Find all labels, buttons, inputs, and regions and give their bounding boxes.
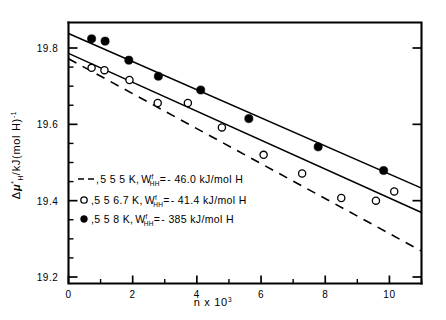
y-tick-label-19.4: 19.4 [37, 196, 59, 207]
legend-558k-value: - 385 kJ/mol H [161, 213, 234, 225]
y-axis-title-mu: μ [10, 184, 22, 192]
y-axis-title-mu-sup: * [10, 181, 17, 184]
data-point-558K [154, 72, 162, 80]
data-point-558K [314, 143, 322, 151]
data-point-558K [101, 37, 109, 45]
axis-frame [69, 23, 422, 284]
svg-text:,5 5 5 K,WfHH=- 46.0 kJ/mol H: ,5 5 5 K,WfHH=- 46.0 kJ/mol H [96, 173, 243, 187]
legend-5567k-temp: 5 5 6.7 K, [94, 194, 142, 206]
y-tick-label-19.8: 19.8 [37, 43, 59, 54]
y-axis-title: Δμ*H/kJ(mol H)-1 [10, 111, 24, 199]
svg-text:n x 103: n x 103 [194, 296, 233, 308]
svg-text:,5 5 6.7 K,WfHH=- 41.4 kJ/mol: ,5 5 6.7 K,WfHH=- 41.4 kJ/mol H [91, 194, 247, 208]
data-point-558K [245, 115, 253, 123]
legend-5567k-sup: f [155, 194, 157, 201]
data-point-5567K [391, 188, 398, 195]
data-point-5567K [372, 197, 379, 204]
y-axis-title-exponent: -1 [10, 111, 17, 118]
legend-558k-sub: HH [144, 220, 154, 227]
data-point-558K [380, 166, 388, 174]
y-axis-major-ticks [69, 48, 422, 277]
data-point-5567K [88, 64, 95, 71]
data-point-5567K [218, 124, 225, 131]
y-axis-title-rest: /kJ(mol H) [10, 118, 22, 175]
legend-entry-555k[interactable]: ,5 5 5 K,WfHH=- 46.0 kJ/mol H [78, 173, 243, 187]
legend-5567k-value: - 41.4 kJ/mol H [171, 194, 247, 206]
data-point-5567K [260, 151, 267, 158]
figure-container: 0246810 19.819.619.419.2 n x 103 Δμ*H/kJ… [0, 0, 446, 320]
legend-filled-circle-marker [81, 216, 88, 223]
x-tick-label-2: 2 [130, 289, 136, 300]
fit-line-5567K [69, 53, 422, 212]
data-point-5567K [101, 67, 108, 74]
y-axis-title-delta: Δ [10, 191, 22, 199]
x-axis-title-exponent: 3 [228, 296, 232, 303]
data-point-5567K [154, 99, 161, 106]
legend-5567k-sub: HH [153, 201, 163, 208]
legend-5567k-equals: = [163, 194, 169, 206]
legend-open-circle-marker [81, 197, 87, 203]
y-axis-tick-labels: 19.819.619.419.2 [37, 43, 59, 283]
data-point-558K [197, 86, 205, 94]
legend-555k-equals: = [160, 173, 166, 185]
svg-text:,5 5 8 K,WfHH=- 385 kJ/mol H: ,5 5 8 K,WfHH=- 385 kJ/mol H [91, 213, 234, 227]
svg-text:Δμ*H/kJ(mol H)-1: Δμ*H/kJ(mol H)-1 [10, 111, 24, 199]
x-tick-label-6: 6 [258, 289, 264, 300]
legend-558k-equals: = [154, 213, 160, 225]
legend-555k-sub: HH [150, 180, 160, 187]
data-point-5567K [299, 170, 306, 177]
axis-spines-top-right [69, 23, 422, 284]
legend-558k-sup: f [146, 213, 148, 220]
legend-555k-temp: 5 5 5 K, [100, 173, 139, 185]
fit-line-558K [69, 33, 422, 188]
x-tick-label-8: 8 [322, 289, 328, 300]
data-point-558K [125, 56, 133, 64]
data-point-5567K [126, 76, 133, 83]
data-point-5567K [338, 194, 345, 201]
legend-555k-sup: f [152, 173, 154, 180]
y-tick-label-19.6: 19.6 [37, 119, 59, 130]
scatter-plot: 0246810 19.819.619.419.2 n x 103 Δμ*H/kJ… [0, 0, 446, 320]
y-tick-label-19.2: 19.2 [37, 272, 59, 283]
data-point-558K [88, 35, 96, 43]
legend-entry-5567k[interactable]: ,5 5 6.7 K,WfHH=- 41.4 kJ/mol H [81, 194, 247, 208]
data-point-5567K [184, 99, 191, 106]
x-tick-label-10: 10 [383, 289, 395, 300]
x-axis-title-text: n x 10 [194, 296, 228, 308]
x-axis-title: n x 103 [194, 296, 233, 308]
legend-entry-558k[interactable]: ,5 5 8 K,WfHH=- 385 kJ/mol H [81, 213, 234, 227]
legend-555k-value: - 46.0 kJ/mol H [167, 173, 243, 185]
legend-558k-temp: 5 5 8 K, [94, 213, 133, 225]
legend: ,5 5 5 K,WfHH=- 46.0 kJ/mol H ,5 5 6.7 K… [78, 173, 247, 227]
legend-555k-prefix: , [96, 173, 99, 185]
axis-spines-left-bottom [69, 23, 422, 284]
x-tick-label-0: 0 [65, 289, 71, 300]
